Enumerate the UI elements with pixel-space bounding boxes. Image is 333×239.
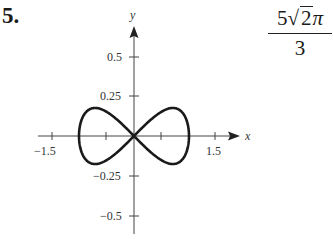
plot: x y −1.5 1.5 0.5 0.25 −0.25 −0.5 [0, 0, 333, 239]
y-tick-label: −0.5 [100, 209, 122, 223]
y-tick-label: −0.25 [93, 169, 121, 183]
x-tick-label-pos: 1.5 [206, 144, 221, 158]
y-tick-label: 0.25 [100, 89, 121, 103]
y-axis-label: y [129, 8, 136, 22]
x-axis-label: x [244, 129, 251, 143]
x-tick-label-neg: −1.5 [34, 144, 56, 158]
y-tick-label: 0.5 [107, 50, 122, 64]
